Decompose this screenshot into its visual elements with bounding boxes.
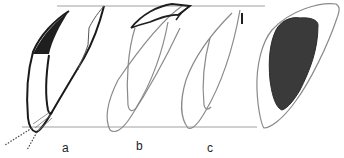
figure-c xyxy=(182,10,242,128)
label-b: b xyxy=(136,140,143,152)
diagram-canvas xyxy=(0,0,344,158)
dotted-line-1 xyxy=(5,128,32,145)
figure-b xyxy=(107,4,190,132)
shaded-region-d xyxy=(269,18,318,110)
filled-region-a xyxy=(33,11,69,54)
diagram: a b c xyxy=(0,0,344,158)
label-c: c xyxy=(207,142,213,154)
figure-d xyxy=(257,4,339,128)
dark-cap-b xyxy=(131,4,190,28)
label-a: a xyxy=(62,142,69,154)
figure-a xyxy=(5,6,104,150)
dotted-line-2 xyxy=(27,132,37,150)
